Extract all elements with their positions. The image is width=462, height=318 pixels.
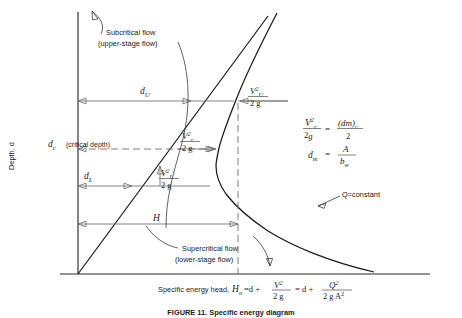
svg-text:2 g: 2 g: [273, 292, 284, 301]
label-d-upper: dU: [140, 86, 151, 98]
annotation-discharge-constant: Q=constant: [318, 190, 380, 208]
svg-text:= d +: = d +: [295, 284, 313, 294]
subcritical-flow-line2: (upper-stage flow): [98, 39, 158, 48]
svg-text:dm: dm: [308, 150, 318, 162]
svg-text:2 g: 2 g: [182, 144, 193, 153]
dimension-d-lower: dL: [78, 171, 210, 189]
figure-caption: FIGURE 11. Specific energy diagram: [167, 308, 295, 317]
svg-text:Ho: Ho: [231, 284, 242, 296]
svg-text:2 g A2: 2 g A2: [323, 291, 344, 301]
velocity-head-lower: V2L 2 g: [159, 168, 179, 190]
supercritical-flow-line1: Supercritical flow: [182, 244, 239, 253]
svg-text:V2: V2: [274, 280, 283, 290]
svg-text:bw: bw: [340, 156, 350, 168]
label-total-head: H: [152, 213, 161, 223]
velocity-head-upper: V2U 2 g: [241, 86, 288, 108]
svg-text:2: 2: [346, 131, 350, 141]
specific-energy-curve: [216, 13, 374, 272]
supercritical-flow-line2: (lower-stage flow): [175, 255, 233, 264]
x-axis-label: Specific energy head, Ho =d + V2 2 g = d…: [158, 280, 352, 301]
svg-text:2g: 2g: [304, 130, 313, 141]
svg-text:=d +: =d +: [244, 284, 260, 294]
dimension-total-head: H: [78, 213, 238, 227]
svg-text:Specific energy head,: Specific energy head,: [158, 285, 229, 294]
discharge-constant-label: Q=constant: [342, 190, 380, 199]
annotation-subcritical-flow: Subcritical flow (upper-stage flow): [92, 11, 188, 228]
svg-text:(dm)c: (dm)c: [338, 118, 358, 130]
svg-text:Q2: Q2: [329, 280, 339, 290]
svg-text:2 g: 2 g: [250, 99, 261, 108]
svg-text:A: A: [342, 144, 349, 154]
specific-energy-diagram: Depth, d dU V2U 2 g dc (critical dep: [0, 0, 462, 318]
label-d-lower: dL: [84, 171, 93, 183]
y-axis-label: Depth, d: [7, 142, 16, 170]
svg-text:=: =: [325, 124, 330, 134]
label-critical-depth: dc: [48, 139, 56, 151]
equation-critical-velocity-head: V2c 2g = (dm)c 2: [303, 116, 363, 141]
subcritical-flow-line1: Subcritical flow: [106, 28, 156, 37]
equation-hydraulic-mean-depth: dm = A bw: [308, 144, 356, 168]
label-critical-depth-note: (critical depth): [66, 141, 110, 149]
annotation-supercritical-flow: Supercritical flow (lower-stage flow): [146, 226, 273, 266]
svg-text:=: =: [325, 149, 330, 159]
